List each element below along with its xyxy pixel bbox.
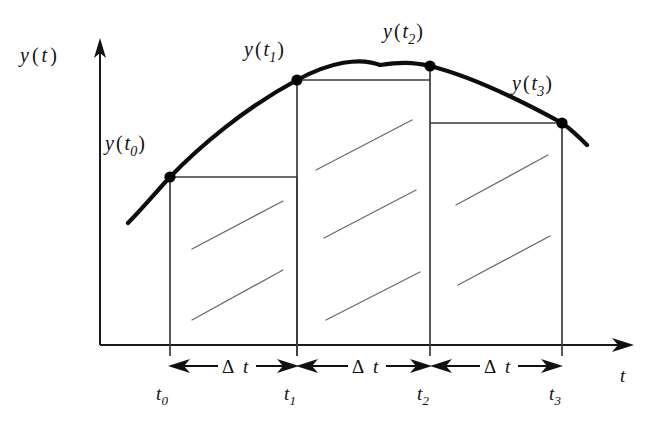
- value-label-y-t3: y(t3): [510, 72, 552, 99]
- delta-variable-2: t: [505, 356, 511, 377]
- svg-text:t1: t1: [284, 383, 296, 408]
- y-axis-label: y(t): [18, 44, 57, 67]
- y-axis-label-y: y: [18, 44, 29, 67]
- riemann-rect-2: [430, 123, 562, 356]
- delta-t-dimension-1: Δ t: [296, 356, 432, 377]
- t-axis: [100, 338, 634, 352]
- sample-point-t1: [291, 74, 302, 85]
- tick-label-t0-sub: 0: [161, 393, 168, 408]
- tick-label-t1-sub: 1: [289, 393, 296, 408]
- svg-text:y(t2): y(t2): [381, 20, 423, 47]
- value-label-y-t0: y(t0): [103, 132, 145, 159]
- svg-text:t0: t0: [156, 383, 168, 408]
- delta-variable-1: t: [373, 356, 379, 377]
- riemann-sum-diagram: y(t) t y(t0) y(t1) y(t2) y(t3): [0, 0, 651, 426]
- diagram-canvas: y(t) t y(t0) y(t1) y(t2) y(t3): [0, 0, 651, 426]
- y-axis-label-arg: t: [42, 44, 48, 66]
- value-label-y-t1: y(t1): [242, 38, 284, 65]
- value-label-y-t3-sub: 3: [536, 84, 544, 99]
- t-axis-label: t: [620, 365, 626, 386]
- hatch-group-2: [456, 155, 550, 285]
- svg-text:y(t0): y(t0): [103, 132, 145, 159]
- value-label-y-t1-sub: 1: [269, 50, 276, 65]
- svg-text:y(t): y(t): [18, 44, 57, 67]
- riemann-rect-1: [297, 66, 430, 356]
- svg-text:y(t1): y(t1): [242, 38, 284, 65]
- y-axis: [94, 38, 106, 345]
- value-label-y-t1-base: y: [242, 38, 253, 61]
- hatch-group-0: [192, 201, 283, 320]
- value-label-y-t3-base: y: [510, 72, 521, 95]
- delta-symbol-2: Δ: [484, 356, 496, 377]
- svg-text:t3: t3: [549, 383, 561, 408]
- value-label-y-t0-base: y: [103, 132, 114, 155]
- delta-variable-0: t: [243, 356, 249, 377]
- tick-label-t3: t3: [549, 383, 561, 408]
- tick-label-t2: t2: [417, 383, 429, 408]
- sample-point-t2: [424, 60, 435, 71]
- sample-point-t0: [164, 171, 175, 182]
- riemann-rect-0: [170, 177, 297, 356]
- svg-text:y(t3): y(t3): [510, 72, 552, 99]
- sample-point-t3: [556, 117, 567, 128]
- value-label-y-t2-base: y: [381, 20, 392, 43]
- tick-label-t3-sub: 3: [553, 393, 561, 408]
- delta-symbol-0: Δ: [222, 356, 234, 377]
- delta-t-dimension-2: Δ t: [430, 356, 563, 377]
- value-label-y-t2: y(t2): [381, 20, 423, 47]
- value-label-y-t0-sub: 0: [130, 144, 137, 159]
- svg-text:t2: t2: [417, 383, 429, 408]
- y-axis-label-paren-open: (: [32, 44, 39, 67]
- tick-label-t2-sub: 2: [422, 393, 429, 408]
- tick-label-t0: t0: [156, 383, 168, 408]
- tick-label-t1: t1: [284, 383, 296, 408]
- hatch-group-1: [316, 120, 420, 320]
- y-axis-label-paren-close: ): [50, 44, 57, 67]
- delta-symbol-1: Δ: [352, 356, 364, 377]
- value-label-y-t2-sub: 2: [408, 32, 415, 47]
- delta-t-dimension-0: Δ t: [168, 356, 299, 377]
